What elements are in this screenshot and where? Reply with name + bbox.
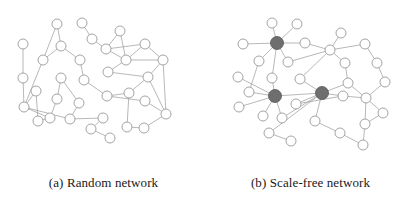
network-node	[291, 99, 301, 109]
network-node	[361, 93, 371, 103]
network-node	[74, 98, 84, 108]
hub-node	[269, 90, 282, 103]
network-node	[244, 87, 254, 97]
network-node	[238, 39, 248, 49]
network-node	[267, 73, 277, 83]
network-node	[300, 38, 310, 48]
network-node	[264, 128, 274, 138]
network-node	[52, 94, 62, 104]
caption-random-network: (a) Random network	[0, 175, 207, 190]
network-node	[295, 74, 305, 84]
network-node	[115, 26, 125, 36]
network-node	[98, 113, 108, 123]
network-node	[267, 18, 277, 28]
network-node	[360, 119, 370, 129]
network-node	[18, 39, 28, 49]
network-node	[161, 109, 171, 119]
network-node	[340, 58, 350, 68]
network-node	[292, 19, 302, 29]
network-node	[19, 102, 29, 112]
network-node	[335, 128, 345, 138]
network-node	[77, 18, 87, 28]
hub-node	[316, 87, 329, 100]
network-node	[87, 34, 97, 44]
network-node	[103, 67, 113, 77]
network-node	[372, 58, 382, 68]
network-node	[140, 96, 150, 106]
network-node	[233, 72, 243, 82]
network-node	[343, 78, 353, 88]
network-node	[325, 45, 335, 55]
network-node	[45, 113, 55, 123]
network-node	[38, 55, 48, 65]
network-node	[140, 39, 150, 49]
network-node	[234, 102, 244, 112]
network-node	[338, 91, 348, 101]
network-node	[75, 55, 85, 65]
network-node	[121, 55, 131, 65]
network-node	[86, 124, 96, 134]
network-node	[122, 122, 132, 132]
network-node	[65, 114, 75, 124]
figure-background	[0, 0, 414, 202]
network-node	[52, 19, 62, 29]
network-node	[286, 136, 296, 146]
network-node	[380, 77, 390, 87]
network-node	[254, 56, 264, 66]
network-node	[310, 116, 320, 126]
network-node	[56, 73, 66, 83]
network-node	[101, 44, 111, 54]
figure-root: (a) Random network (b) Scale-free networ…	[0, 0, 414, 202]
network-node	[139, 123, 149, 133]
network-node	[378, 108, 388, 118]
network-node	[283, 57, 293, 67]
network-node	[277, 113, 287, 123]
network-node	[18, 73, 28, 83]
network-node	[258, 111, 268, 121]
network-node	[358, 140, 368, 150]
network-node	[360, 39, 370, 49]
network-node	[102, 91, 112, 101]
network-node	[336, 28, 346, 38]
hub-node	[271, 37, 284, 50]
network-node	[33, 116, 43, 126]
network-node	[105, 133, 115, 143]
caption-scale-free-network: (b) Scale-free network	[207, 175, 414, 190]
network-node	[158, 55, 168, 65]
network-node	[143, 72, 153, 82]
network-node	[124, 88, 134, 98]
network-node	[79, 75, 89, 85]
network-node	[56, 41, 66, 51]
network-comparison-figure	[0, 0, 414, 202]
network-node	[31, 86, 41, 96]
